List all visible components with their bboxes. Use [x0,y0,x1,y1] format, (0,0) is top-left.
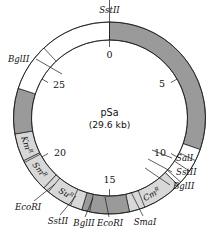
site-leader-sstII-right [148,159,172,172]
site-label-ecoRI-bottom-right: EcoRI [96,218,124,228]
site-label-bglII-left: BglII [7,54,30,64]
plasmid-name: pSa [100,107,118,118]
site-label-sstII-right: SstII [176,167,197,177]
plasmid-diagram: 0510152025 SstIIBglIISalISstIIBglIISmaIE… [0,0,219,240]
scale-tick-25 [42,79,48,83]
scale-tick-label-5: 5 [159,78,165,89]
scale-ticks-group: 0510152025 [42,40,177,196]
scale-tick-5 [171,79,177,83]
site-label-bglII-bottom: BglII [72,218,95,228]
site-label-ecoRI-bottom-left: EcoRI [14,202,42,212]
plasmid-map-figure: 0510152025 SstIIBglIISalISstIIBglIISmaIE… [0,0,219,240]
site-label-salI-right: SalI [176,153,194,163]
scale-tick-label-20: 20 [54,147,66,158]
plasmid-size: (29.6 kb) [89,119,131,130]
scale-tick-label-25: 25 [53,79,65,90]
scale-tick-label-15: 15 [103,174,115,185]
scale-tick-label-0: 0 [106,49,112,60]
ring-inner-circle [32,40,188,196]
site-label-bglII-right: BglII [172,181,195,191]
site-label-smaI-bottom: SmaI [134,217,157,227]
scale-tick-20 [42,154,48,158]
site-label-sstII-top: SstII [99,5,120,15]
site-label-sstII-bottom: SstII [48,216,69,226]
scale-tick-label-10: 10 [154,147,166,158]
center-label-group: pSa (29.6 kb) [89,107,131,130]
